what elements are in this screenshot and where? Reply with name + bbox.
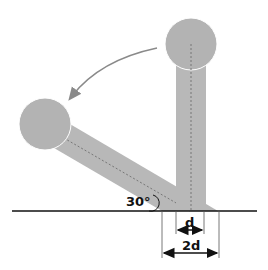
rotation-arrow-icon [72,48,157,96]
dimension-2d-label: 2d [182,238,200,253]
fallen-ball [19,98,71,150]
angle-label: 30° [126,194,151,209]
diagram-canvas: 30° d 2d [0,0,268,270]
upright-ball [165,18,217,70]
dimension-d-label: d [185,215,194,230]
diagram: 30° d 2d [0,0,268,270]
